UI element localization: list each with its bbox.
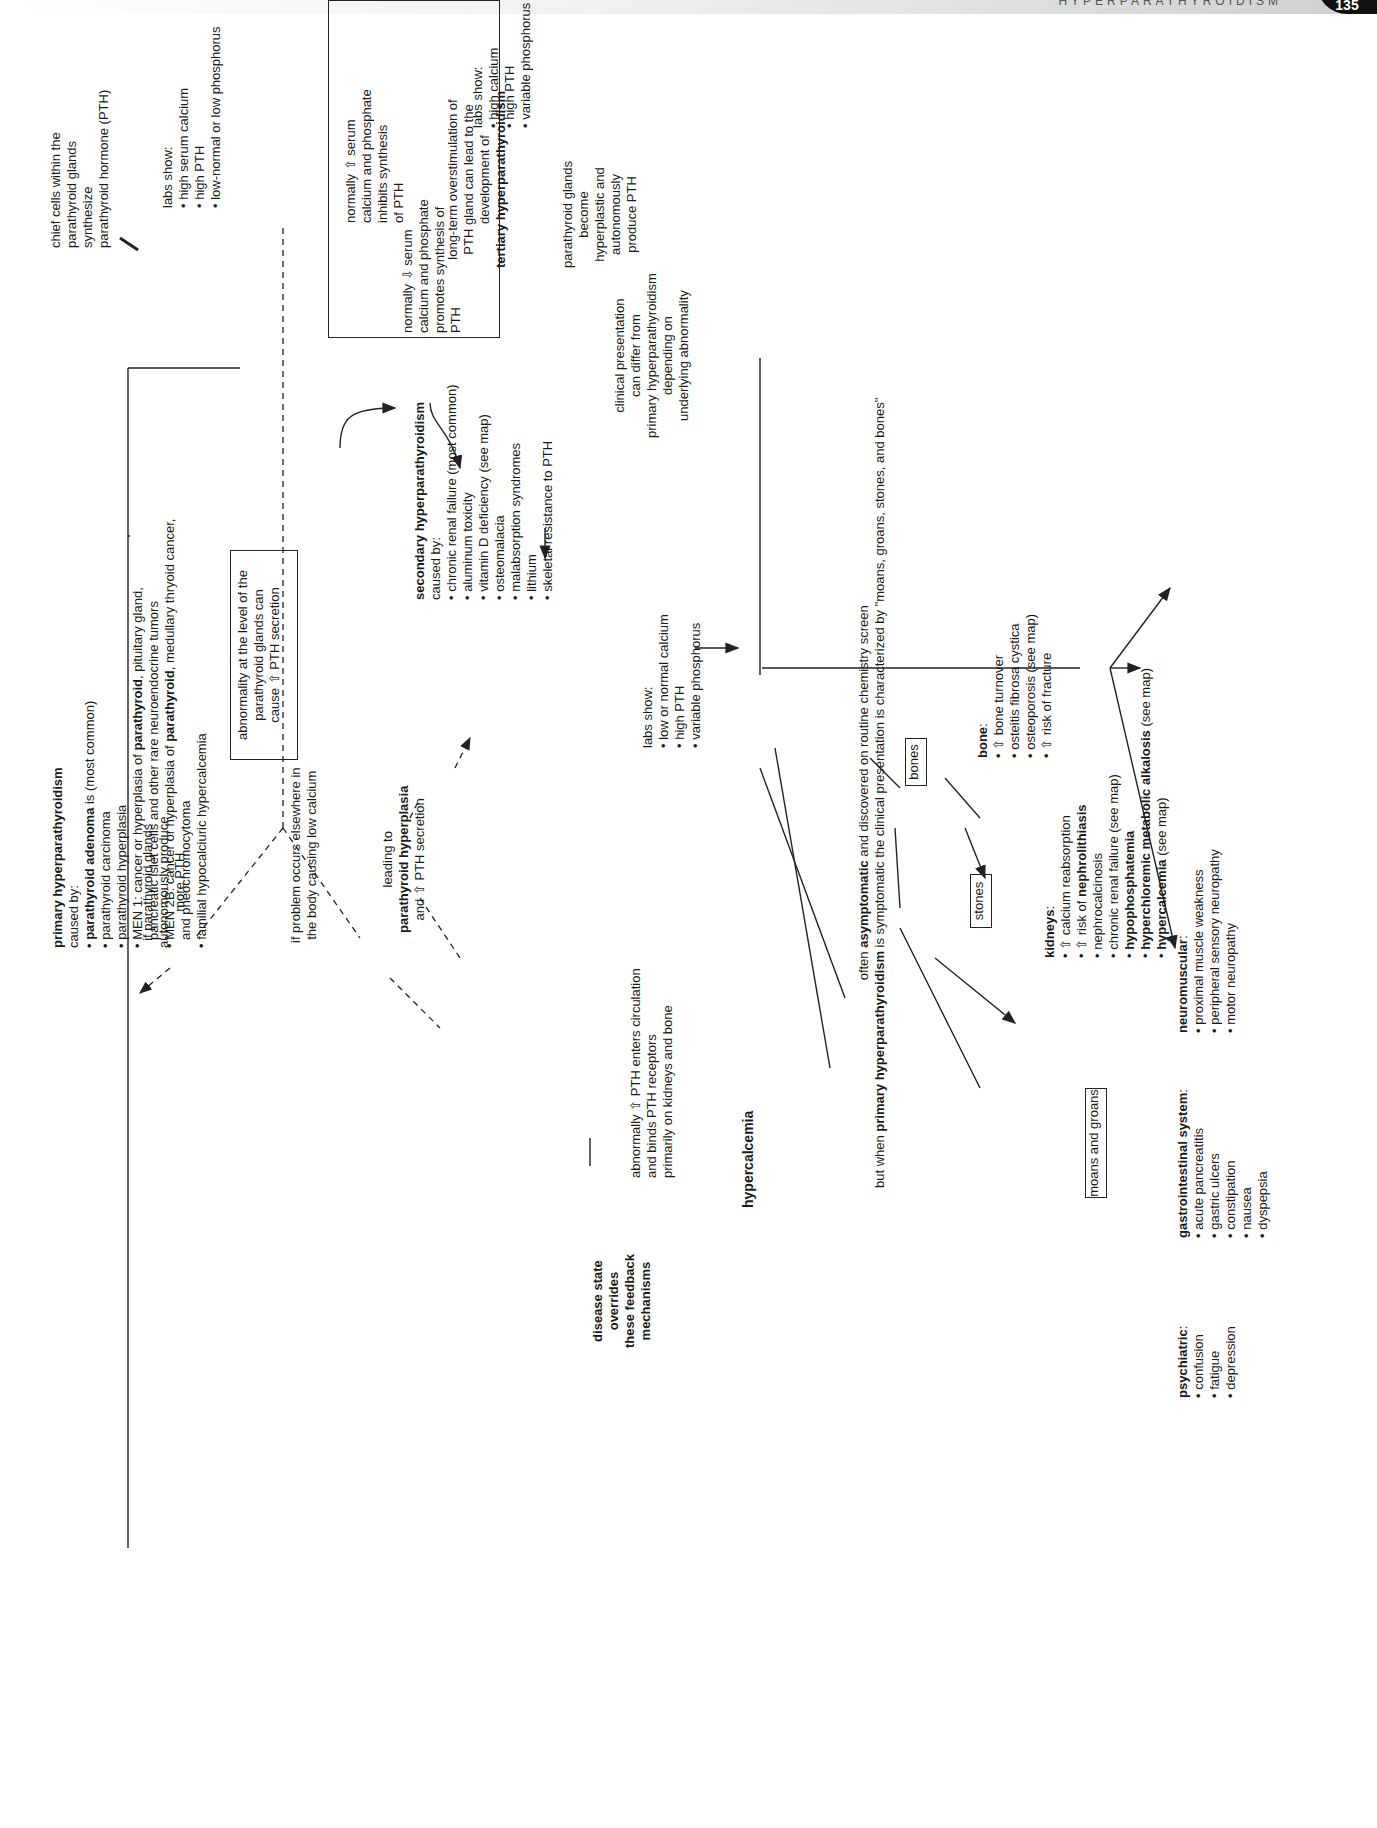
text-line: hyperplastic and <box>592 161 608 268</box>
text-line: calcium and phosphate <box>416 199 432 333</box>
symptom-item: peripheral sensory neuropathy <box>1207 849 1223 1033</box>
primary-hpt-block: primary hyperparathyroidism caused by: p… <box>50 519 210 948</box>
lab-item: high serum calcium <box>176 26 192 208</box>
chief-cells-text: chief cells within the parathyroid gland… <box>48 90 112 248</box>
lab-item: variable phosphorus <box>688 614 704 748</box>
primary-hpt-title: primary hyperparathyroidism <box>50 519 66 948</box>
symptom-item: confusion <box>1191 1326 1207 1398</box>
text-line: parathyroid glands <box>64 90 80 248</box>
text-line: long-term overstimulation of <box>445 91 461 268</box>
cause-item: skeletal resistance to PTH <box>540 384 556 600</box>
symptom-item: proximal muscle weakness <box>1191 849 1207 1033</box>
kidneys-title: kidneys <box>1042 910 1057 958</box>
bones-category-box: bones <box>905 738 927 786</box>
kidney-item: ⇧ calcium reabsorption <box>1058 668 1074 958</box>
symptom-item: depression <box>1223 1326 1239 1398</box>
lab-item: high PTH <box>192 26 208 208</box>
bone-title: bone <box>975 727 990 758</box>
psychiatric-title: psychiatric <box>1175 1329 1190 1398</box>
symptom-item: constipation <box>1223 1089 1239 1238</box>
labs-title: labs show: <box>640 614 656 748</box>
caused-by-label: caused by: <box>66 519 82 948</box>
cause-item: lithium <box>524 384 540 600</box>
cause-item: osteomalacia <box>492 384 508 600</box>
psychiatric-block: psychiatric: confusion fatigue depressio… <box>1175 1326 1239 1398</box>
text-line: calcium and phosphate <box>359 89 375 223</box>
pth-circulation-text: abnormally ⇧ PTH enters circulation and … <box>628 968 676 1178</box>
gastrointestinal-block: gastrointestinal system: acute pancreati… <box>1175 1089 1271 1238</box>
lab-item: high PTH <box>672 614 688 748</box>
text-line: mechanisms <box>638 1254 654 1348</box>
cause-item: familial hypocalciuric hypercalcemia <box>194 519 210 948</box>
text-line: parathyroid glands can <box>251 551 267 759</box>
moans-groans-category-box: moans and groans <box>1085 1088 1107 1198</box>
branch-elsewhere-text: if problem occurs elsewhere in the body … <box>288 767 320 943</box>
text-line: overrides <box>606 1254 622 1348</box>
gastrointestinal-title: gastrointestinal system <box>1175 1093 1190 1238</box>
kidney-item: ⇧ risk of nephrolithiasis <box>1074 668 1090 958</box>
text-line: the body causing low calcium <box>304 767 320 943</box>
abnormality-box: abnormality at the level of the parathyr… <box>230 550 298 760</box>
stones-category-box: stones <box>970 874 992 928</box>
symptom-item: fatigue <box>1207 1326 1223 1398</box>
cause-item: parathyroid hyperplasia <box>114 519 130 948</box>
kidneys-block: kidneys: ⇧ calcium reabsorption ⇧ risk o… <box>1042 668 1170 958</box>
text-line: primarily on kidneys and bone <box>660 968 676 1178</box>
labs-title: labs show: <box>160 26 176 208</box>
kidney-item: hypophosphatemia <box>1122 668 1138 958</box>
leading-to-text: leading to parathyroid hyperplasia and ⇧… <box>380 786 428 933</box>
text-line: leading to <box>380 786 396 933</box>
text-line: underlying abnormality <box>676 273 692 438</box>
cause-item: aluminum toxicity <box>460 384 476 600</box>
caused-by-label: caused by: <box>428 384 444 600</box>
symptom-item: nausea <box>1239 1089 1255 1238</box>
cause-item: chronic renal failure (most common) <box>444 384 460 600</box>
secondary-hpt-block: secondary hyperparathyroidism caused by:… <box>412 384 556 600</box>
kidney-item: hyperchloremic metabolic alkalosis (see … <box>1138 668 1154 958</box>
asymptomatic-note: often asymptomatic and discovered on rou… <box>856 398 888 1188</box>
text-line: and ⇧ PTH secretion <box>412 786 428 933</box>
lab-item: variable phosphorus <box>518 3 534 128</box>
text-line: synthesize <box>80 90 96 248</box>
feedback-inhibit-text: normally ⇧ serum calcium and phosphate i… <box>343 89 407 223</box>
text-line: clinical presentation <box>612 273 628 438</box>
cause-item: vitamin D deficiency (see map) <box>476 384 492 600</box>
text-line: chief cells within the <box>48 90 64 248</box>
parathyroid-hyperplasia-label: parathyroid hyperplasia <box>396 786 412 933</box>
text-line: can differ from <box>628 273 644 438</box>
concept-map: chief cells within the parathyroid gland… <box>0 0 1377 1828</box>
text-line: depending on <box>660 273 676 438</box>
secondary-hpt-title: secondary hyperparathyroidism <box>412 384 428 600</box>
lab-item: high calcium <box>486 3 502 128</box>
cause-item: parathyroid adenoma is (most common) <box>82 519 98 948</box>
clinical-presentation-text: clinical presentation can differ from pr… <box>612 273 692 438</box>
text-line: normally ⇩ serum <box>400 199 416 333</box>
text-line: and binds PTH receptors <box>644 968 660 1178</box>
symptom-item: motor neuropathy <box>1223 849 1239 1033</box>
text-line: become <box>576 161 592 268</box>
text-line: normally ⇧ serum <box>343 89 359 223</box>
lab-item: low-normal or low phosphorus <box>208 26 224 208</box>
secondary-labs-block: labs show: low or normal calcium high PT… <box>640 614 704 748</box>
lab-item: low or normal calcium <box>656 614 672 748</box>
disease-state-text: disease state overrides these feedback m… <box>590 1254 654 1348</box>
tertiary-glands-text: parathyroid glands become hyperplastic a… <box>560 161 640 268</box>
text-line: autonomously <box>608 161 624 268</box>
cause-item: malabsorption syndromes <box>508 384 524 600</box>
text-line: if problem occurs elsewhere in <box>288 767 304 943</box>
bone-item: osteoporosis (see map) <box>1023 614 1039 758</box>
cause-item: MEN 1: cancer or hyperplasia of parathyr… <box>130 519 162 948</box>
neuromuscular-block: neuromuscular: proximal muscle weakness … <box>1175 849 1239 1033</box>
text-line: abnormality at the level of the <box>235 551 251 759</box>
kidney-item: chronic renal failure (see map) <box>1106 668 1122 958</box>
asymptomatic-line-1: often asymptomatic and discovered on rou… <box>856 398 872 1188</box>
text-line: primary hyperparathyroidism <box>644 273 660 438</box>
bone-item: ⇧ bone turnover <box>991 614 1007 758</box>
symptom-item: acute pancreatitis <box>1191 1089 1207 1238</box>
text-line: parathyroid glands <box>560 161 576 268</box>
neuromuscular-title: neuromuscular <box>1175 939 1190 1033</box>
lab-item: high PTH <box>502 3 518 128</box>
text-line: cause ⇧ PTH secretion <box>267 551 283 759</box>
kidney-item: nephrocalcinosis <box>1090 668 1106 958</box>
symptom-item: dyspepsia <box>1255 1089 1271 1238</box>
